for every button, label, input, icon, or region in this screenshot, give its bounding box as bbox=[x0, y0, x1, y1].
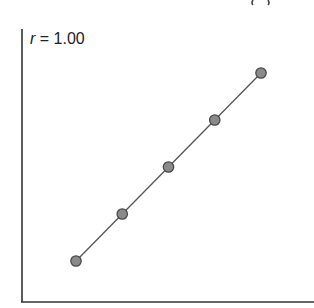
scatter-chart: r = 1.00 bbox=[0, 0, 314, 308]
correlation-annotation: r = 1.00 bbox=[30, 30, 85, 47]
data-point bbox=[210, 115, 220, 125]
data-point bbox=[117, 209, 127, 219]
data-point bbox=[163, 162, 173, 172]
panel-label-fragment bbox=[252, 0, 269, 5]
data-point bbox=[71, 256, 81, 266]
data-point bbox=[256, 68, 266, 78]
